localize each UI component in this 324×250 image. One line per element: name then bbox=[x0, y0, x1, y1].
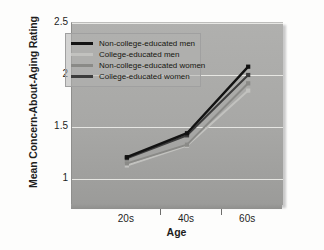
chart-figure: Mean Concern-About-Aging Rating 11.522.5… bbox=[0, 0, 324, 250]
y-tick-label: 2.5 bbox=[42, 16, 68, 27]
data-point-marker bbox=[246, 65, 250, 69]
legend-color-swatch bbox=[71, 42, 93, 45]
legend-item[interactable]: College-educated men bbox=[71, 49, 196, 60]
chart-legend: Non-college-educated menCollege-educated… bbox=[65, 33, 201, 87]
x-tick-label: 20s bbox=[118, 213, 134, 224]
legend-item[interactable]: Non-college-educated men bbox=[71, 38, 196, 49]
data-point-marker bbox=[185, 131, 189, 135]
data-point-marker bbox=[246, 81, 250, 85]
legend-item[interactable]: College-educated women bbox=[71, 71, 196, 82]
data-point-marker bbox=[246, 73, 250, 77]
y-tick-label: 1.5 bbox=[42, 120, 68, 131]
data-point-marker bbox=[246, 89, 250, 93]
x-tick-label: 40s bbox=[178, 213, 194, 224]
legend-label: College-educated women bbox=[99, 71, 190, 82]
x-tick-mark bbox=[221, 209, 222, 215]
legend-label: Non-college-educated men bbox=[99, 38, 195, 49]
y-axis-tick-labels: 11.522.5 bbox=[38, 22, 68, 204]
data-point-marker bbox=[125, 161, 129, 165]
legend-item[interactable]: Non-college-educated women bbox=[71, 60, 196, 71]
legend-color-swatch bbox=[71, 53, 93, 56]
data-point-marker bbox=[125, 155, 129, 159]
legend-color-swatch bbox=[71, 75, 93, 78]
x-tick-label: 60s bbox=[239, 213, 255, 224]
legend-label: Non-college-educated women bbox=[99, 60, 205, 71]
x-axis-title: Age bbox=[71, 226, 282, 238]
legend-label: College-educated men bbox=[99, 49, 180, 60]
y-tick-label: 1 bbox=[42, 172, 68, 183]
legend-color-swatch bbox=[71, 64, 93, 67]
x-axis-tick-labels: 20s40s60s bbox=[71, 209, 282, 225]
x-tick-mark bbox=[160, 209, 161, 215]
data-point-marker bbox=[185, 143, 189, 147]
